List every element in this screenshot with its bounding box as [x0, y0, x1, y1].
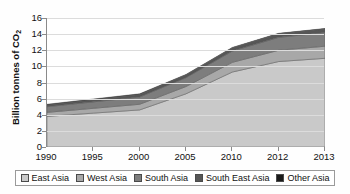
y-axis-tick-label: 10 — [16, 60, 42, 71]
plot-area — [46, 18, 324, 147]
legend-item: East Asia — [21, 173, 70, 183]
legend-item: South Asia — [134, 173, 188, 183]
y-axis-tick-label: 14 — [16, 28, 42, 39]
x-axis-tick-mark — [324, 147, 325, 151]
x-axis-tick-mark — [231, 147, 232, 151]
legend-label: South Asia — [145, 173, 188, 183]
gridline — [47, 34, 324, 35]
legend-item: South East Asia — [195, 173, 270, 183]
y-axis-tick-label: 6 — [16, 93, 42, 104]
x-axis-tick-mark — [278, 147, 279, 151]
y-axis-tick-mark — [42, 147, 46, 148]
legend-label: West Asia — [87, 173, 127, 183]
legend-item: Other Asia — [276, 173, 329, 183]
y-axis-tick-label: 2 — [16, 125, 42, 136]
legend-swatch-icon — [195, 174, 203, 182]
legend: East AsiaWest AsiaSouth AsiaSouth East A… — [15, 170, 335, 186]
gridline — [47, 131, 324, 132]
gridline — [47, 83, 324, 84]
gridline — [47, 66, 324, 67]
legend-swatch-icon — [276, 174, 284, 182]
x-axis-tick-label: 2000 — [117, 151, 161, 162]
gridline — [47, 50, 324, 51]
legend-label: East Asia — [32, 173, 70, 183]
legend-label: South East Asia — [206, 173, 270, 183]
gridline — [47, 99, 324, 100]
x-axis-tick-label: 1995 — [70, 151, 114, 162]
gridline — [47, 115, 324, 116]
x-axis-tick-label: 2013 — [302, 151, 346, 162]
x-axis-tick-label: 2005 — [163, 151, 207, 162]
x-axis-tick-mark — [139, 147, 140, 151]
legend-item: West Asia — [76, 173, 127, 183]
x-axis-tick-mark — [185, 147, 186, 151]
y-axis-tick-label: 4 — [16, 109, 42, 120]
chart-figure: Billion tonnes of CO2 0246810121416 1990… — [0, 0, 350, 194]
y-axis-tick-label: 8 — [16, 77, 42, 88]
legend-swatch-icon — [134, 174, 142, 182]
legend-swatch-icon — [76, 174, 84, 182]
x-axis-tick-mark — [92, 147, 93, 151]
gridline — [47, 18, 324, 19]
legend-label: Other Asia — [287, 173, 329, 183]
x-axis-tick-label: 1990 — [24, 151, 68, 162]
x-axis-tick-label: 2010 — [209, 151, 253, 162]
legend-swatch-icon — [21, 174, 29, 182]
x-axis-tick-label: 2012 — [256, 151, 300, 162]
y-axis-tick-label: 16 — [16, 12, 42, 23]
y-axis-tick-label: 12 — [16, 44, 42, 55]
